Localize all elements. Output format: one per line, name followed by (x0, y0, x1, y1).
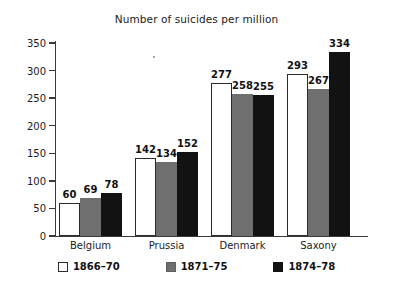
chart-legend: 1866–701871–751874–78 (0, 261, 393, 272)
bar (211, 83, 232, 236)
bar-value-label: 267 (308, 75, 329, 86)
y-axis-tick (49, 97, 56, 98)
bar-value-label: 334 (329, 38, 350, 49)
bar (308, 89, 329, 236)
legend-label: 1874–78 (288, 261, 335, 272)
bar-value-label: 277 (211, 69, 232, 80)
y-axis-tick-label: 50 (33, 203, 46, 214)
bar (329, 52, 350, 236)
legend-swatch (58, 262, 68, 272)
y-axis-tick-label: 0 (40, 231, 46, 242)
y-axis-tick (49, 125, 56, 126)
y-axis-tick (49, 42, 56, 43)
y-axis-tick (49, 235, 56, 236)
bar-chart: Number of suicides per million 1866–7018… (0, 0, 393, 292)
x-axis-category-label: Prussia (149, 240, 185, 251)
y-axis-tick (49, 180, 56, 181)
bar-value-label: 142 (135, 144, 156, 155)
y-axis-tick (49, 208, 56, 209)
bar-value-label: 152 (177, 138, 198, 149)
bar-value-label: 134 (156, 148, 177, 159)
y-axis-tick (49, 153, 56, 154)
y-axis-tick-label: 100 (27, 175, 46, 186)
x-axis-category-label: Belgium (70, 240, 111, 251)
bar (135, 158, 156, 236)
bar (232, 94, 253, 236)
y-axis-tick-label: 300 (27, 65, 46, 76)
bar-value-label: 78 (105, 179, 119, 190)
bar-value-label: 293 (287, 60, 308, 71)
y-axis-tick-label: 200 (27, 120, 46, 131)
bar (80, 198, 101, 236)
x-axis-category-label: Saxony (300, 240, 336, 251)
bar-value-label: 258 (232, 80, 253, 91)
x-axis-category-label: Denmark (220, 240, 266, 251)
bar (287, 74, 308, 236)
y-axis-tick (49, 70, 56, 71)
legend-label: 1871–75 (181, 261, 228, 272)
legend-swatch (273, 262, 283, 272)
bar-value-label: 255 (253, 81, 274, 92)
y-axis-tick-label: 350 (27, 38, 46, 49)
bar (177, 152, 198, 236)
x-axis-line (55, 236, 368, 237)
bar-value-label: 60 (63, 189, 77, 200)
legend-item: 1874–78 (273, 261, 335, 272)
bar (59, 203, 80, 236)
y-axis-tick-label: 150 (27, 148, 46, 159)
bar (101, 193, 122, 236)
legend-item: 1866–70 (58, 261, 120, 272)
legend-label: 1866–70 (73, 261, 120, 272)
legend-item: 1871–75 (166, 261, 228, 272)
chart-title: Number of suicides per million (0, 13, 393, 25)
legend-swatch (166, 262, 176, 272)
bar-value-label: 69 (84, 184, 98, 195)
y-axis-tick-label: 250 (27, 93, 46, 104)
bar (156, 162, 177, 236)
bar (253, 95, 274, 236)
